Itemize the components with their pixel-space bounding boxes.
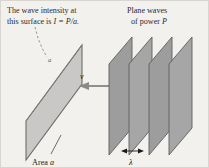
area-label-prefix: Area [32, 158, 50, 167]
plane-waves-caption-line1: Plane waves [127, 6, 167, 15]
plane-waves-caption-power-symbol: P [161, 17, 167, 26]
area-leader-line [51, 135, 61, 154]
intensity-dashed-leader [35, 27, 47, 57]
area-label: Area a [32, 158, 54, 167]
intensity-caption-line2: this surface is I = P/a. [7, 17, 79, 26]
velocity-label: v [80, 72, 84, 81]
surface-area-small-label: a [48, 56, 52, 63]
intensity-caption-formula: I = P/a. [53, 17, 79, 26]
wavelength-label: λ [128, 158, 133, 167]
plane-waves-caption-prefix: of power [131, 17, 162, 26]
area-label-symbol: a [50, 158, 54, 167]
intensity-caption-line1: The wave intensity at [7, 6, 77, 15]
wave-plane-stack [109, 37, 192, 155]
intensity-caption-prefix: this surface is [7, 17, 54, 26]
plane-waves-caption-line2: of power P [131, 17, 167, 26]
wave-intensity-figure: The wave intensity at this surface is I … [0, 0, 209, 168]
intensity-surface [26, 45, 82, 160]
